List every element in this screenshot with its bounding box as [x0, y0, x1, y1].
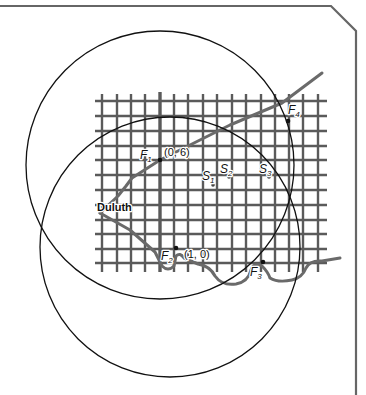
- label-f1: F1: [140, 148, 152, 164]
- diagram-canvas: Duluth F1 (0, 6) F2 (1, 0) F3 F4 S1 S2 S…: [0, 0, 366, 395]
- label-s1: S1: [202, 169, 214, 185]
- coord-label-f2: (1, 0): [184, 248, 210, 260]
- point-f3: [261, 260, 266, 265]
- point-f4: [286, 119, 291, 124]
- label-f2: F2: [161, 249, 173, 265]
- city-label-duluth: Duluth: [97, 201, 132, 213]
- point-f2: [174, 246, 179, 251]
- label-f4: F4: [288, 103, 300, 119]
- point-f1: [158, 158, 163, 163]
- coord-label-f1: (0, 6): [164, 146, 190, 158]
